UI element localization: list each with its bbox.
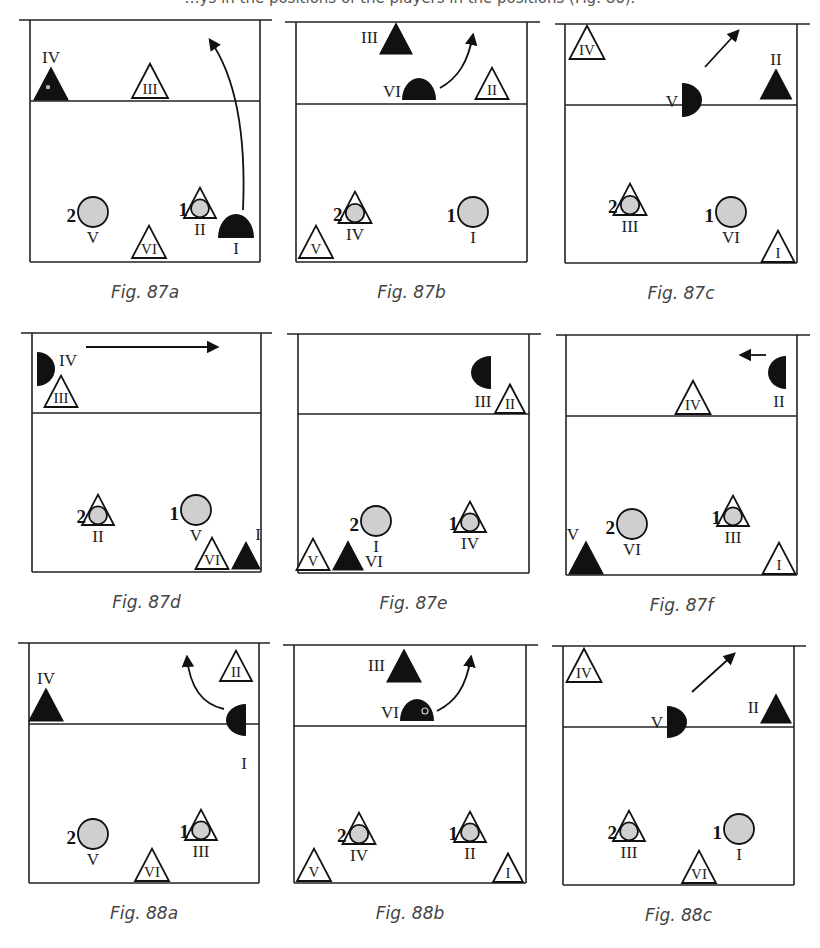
setter-halfcircle-icon xyxy=(682,83,702,117)
player-IV: 1IV xyxy=(449,502,487,553)
figure-87a: IVIII2VVI1IIIFig. 87a xyxy=(19,20,272,302)
player-label: VI xyxy=(623,540,641,559)
ball-circle-icon xyxy=(78,819,108,849)
player-label: III xyxy=(54,390,69,406)
player-label: IV xyxy=(685,397,701,413)
player-VI: VI xyxy=(383,78,436,101)
solid-triangle-icon xyxy=(569,542,603,574)
player-V: V xyxy=(297,539,330,570)
order-number: 2 xyxy=(608,822,618,843)
player-label: IV xyxy=(346,225,365,244)
player-label: II xyxy=(773,392,785,411)
figure-caption: Fig. 87b xyxy=(377,282,446,302)
ball-circle-icon xyxy=(361,506,391,536)
figure-87f: IIIV2VI1IIIVIFig. 87f xyxy=(556,335,810,615)
ball-circle-icon xyxy=(461,513,479,531)
player-label: I xyxy=(241,754,247,773)
player-II: 1II xyxy=(449,812,487,863)
ball-circle-icon xyxy=(181,495,211,525)
figure-87e: IIIII2I1IVVVIFig. 87e xyxy=(287,334,541,613)
setter-halfcircle-icon xyxy=(226,704,246,736)
player-I: 1I xyxy=(713,814,755,864)
ball-circle-icon xyxy=(192,821,210,839)
player-V: V xyxy=(567,525,603,574)
order-number: 1 xyxy=(705,205,715,226)
player-label: V xyxy=(666,92,679,111)
player-III: 1III xyxy=(180,810,218,861)
player-label: VI xyxy=(204,552,220,568)
player-label: V xyxy=(87,228,100,247)
player-VI: VI xyxy=(135,849,169,881)
player-IV: IV xyxy=(29,669,63,721)
player-label: II xyxy=(464,844,476,863)
setter-halfcircle-icon xyxy=(402,78,436,100)
order-number: 2 xyxy=(67,205,77,226)
figure-caption: Fig. 87f xyxy=(650,595,717,615)
player-label: IV xyxy=(59,351,78,370)
player-VI: 1VI xyxy=(705,197,747,247)
player-II: II xyxy=(748,695,791,724)
ball-circle-icon xyxy=(621,196,639,214)
player-II: II xyxy=(495,385,525,414)
movement-arrow-icon xyxy=(210,40,244,210)
order-number: 1 xyxy=(449,823,459,844)
player-label: V xyxy=(311,241,322,257)
ball-circle-icon xyxy=(620,822,638,840)
player-II: 2II xyxy=(77,495,115,546)
player-label: IV xyxy=(461,534,480,553)
player-label: III xyxy=(725,528,742,547)
setter-halfcircle-icon xyxy=(768,356,786,389)
player-label: IV xyxy=(576,665,592,681)
player-VI: VI xyxy=(132,226,166,258)
figure-caption: Fig. 87c xyxy=(647,283,715,303)
figure-88b: IIIVI2IV1IIVIFig. 88b xyxy=(283,645,538,923)
ball-circle-icon xyxy=(350,825,368,843)
ball-circle-icon xyxy=(458,197,488,227)
player-III: 2III xyxy=(608,184,647,236)
player-label: III xyxy=(622,217,639,236)
figure-caption: Fig. 87a xyxy=(111,282,179,302)
player-IV: 2IV xyxy=(333,192,372,244)
solid-triangle-icon xyxy=(380,24,412,54)
player-label: IV xyxy=(42,48,61,67)
player-I: 1I xyxy=(447,197,489,247)
player-label: V xyxy=(651,713,664,732)
player-V: 2V xyxy=(67,819,109,869)
player-III: III xyxy=(132,64,168,98)
ball-circle-icon xyxy=(89,506,107,524)
player-label: III xyxy=(361,28,378,47)
player-label: I xyxy=(233,239,239,258)
player-IV: IV xyxy=(567,649,602,682)
player-I: I xyxy=(226,704,247,773)
player-II: II xyxy=(761,50,792,99)
order-number: 2 xyxy=(608,196,618,217)
player-label: I xyxy=(777,557,782,573)
player-V: 2V xyxy=(67,197,109,247)
player-label: IV xyxy=(37,669,56,688)
player-II: II xyxy=(768,356,786,411)
dot-mark-icon xyxy=(46,85,50,89)
movement-arrow-icon xyxy=(692,654,734,692)
figure-87b: IIIVIII2IV1IVFig. 87b xyxy=(285,22,540,302)
player-label: I xyxy=(736,845,742,864)
player-I: I xyxy=(232,525,261,569)
solid-triangle-icon xyxy=(387,650,421,682)
order-number: 2 xyxy=(77,506,87,527)
movement-arrow-icon xyxy=(187,657,224,709)
player-label: VI xyxy=(365,552,383,571)
player-label: II xyxy=(194,220,206,239)
player-label: VI xyxy=(381,703,399,722)
ball-circle-icon xyxy=(346,204,364,222)
court-frame xyxy=(285,22,540,262)
movement-arrow-icon xyxy=(437,657,471,711)
solid-triangle-icon xyxy=(333,542,363,571)
player-I: I xyxy=(493,854,523,883)
order-number: 1 xyxy=(712,507,722,528)
movement-arrow-icon xyxy=(705,31,738,67)
player-I: 2I xyxy=(350,506,392,556)
player-III: III xyxy=(361,24,412,54)
volleyball-rotation-diagrams: IVIII2VVI1IIIFig. 87aIIIVIII2IV1IVFig. 8… xyxy=(0,0,820,948)
order-number: 1 xyxy=(179,199,189,220)
movement-arrow-icon xyxy=(440,35,473,88)
player-II: 1II xyxy=(179,188,217,239)
